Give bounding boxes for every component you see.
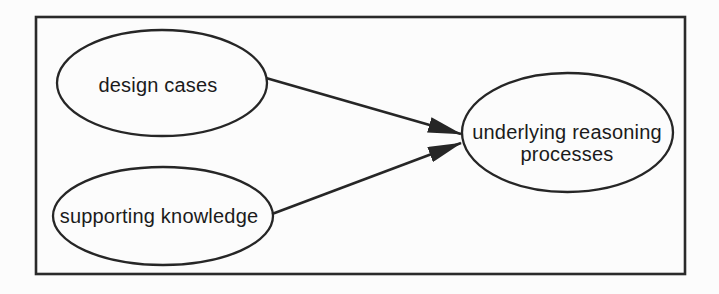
diagram-canvas: design cases supporting knowledge underl… — [0, 0, 719, 294]
diagram-svg: design cases supporting knowledge underl… — [0, 0, 719, 294]
node-label-supporting-knowledge: supporting knowledge — [60, 205, 259, 227]
node-label-underlying-reasoning-line1: underlying reasoning — [472, 121, 662, 143]
node-label-design-cases: design cases — [98, 74, 217, 96]
node-label-underlying-reasoning-line2: processes — [521, 143, 614, 165]
